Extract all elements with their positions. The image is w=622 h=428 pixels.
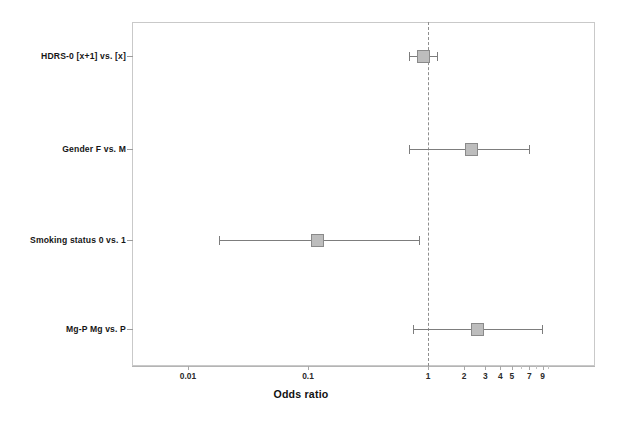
ci-row-smoking-status [219,240,421,241]
x-tick-7 [529,366,530,370]
row-label-smoking-status: Smoking status 0 vs. 1 [0,235,126,245]
point-estimate-marker [471,323,484,336]
x-tick-8 [536,366,537,369]
plot-frame [132,22,595,366]
x-ticklabel-1: 1 [426,371,431,381]
ci-row-hdrs0 [409,56,438,57]
x-ticklabel-2: 2 [462,371,467,381]
x-tick-4 [500,366,501,370]
x-ticklabel-0-1: 0.1 [302,371,314,381]
ci-cap-upper [419,236,420,245]
ci-row-mg-p [413,329,543,330]
x-axis-title-text: Odds ratio [274,388,329,400]
x-tick-1 [428,366,429,370]
x-tick-5 [512,366,513,370]
x-tick-3 [485,366,486,370]
ci-cap-upper [542,325,543,334]
x-tick-0-01 [188,366,189,370]
x-ticklabel-4: 4 [498,371,503,381]
row-tick-mg-p [127,329,133,330]
x-tick-9 [543,366,544,370]
point-estimate-marker [311,234,324,247]
ci-cap-lower [409,52,410,61]
x-ticklabel-9: 9 [540,371,545,381]
point-estimate-marker [465,143,478,156]
ci-cap-lower [219,236,220,245]
x-axis-title: Odds ratio [0,388,622,400]
reference-line-or-1 [428,22,429,366]
ci-cap-lower [409,145,410,154]
ci-cap-upper [529,145,530,154]
x-ticklabel-0-01: 0.01 [180,371,196,381]
row-tick-smoking-status [127,240,133,241]
x-axis-line [132,366,595,367]
x-ticklabel-7: 7 [527,371,532,381]
row-tick-hdrs0 [127,56,133,57]
row-label-hdrs0: HDRS-0 [x+1] vs. [x] [0,51,126,61]
x-ticklabel-5: 5 [510,371,515,381]
x-tick-10 [548,366,549,369]
x-tick-2 [464,366,465,370]
row-label-mg-p: Mg-P Mg vs. P [0,324,126,334]
ci-row-gender [409,149,530,150]
row-tick-gender [127,149,133,150]
x-tick-6 [521,366,522,369]
ci-cap-upper [437,52,438,61]
x-tick-0-1 [308,366,309,370]
x-ticklabel-3: 3 [483,371,488,381]
point-estimate-marker [417,50,430,63]
forest-plot-figure: HDRS-0 [x+1] vs. [x] Gender F vs. M Smok… [0,0,622,428]
ci-cap-lower [413,325,414,334]
row-label-gender: Gender F vs. M [0,144,126,154]
